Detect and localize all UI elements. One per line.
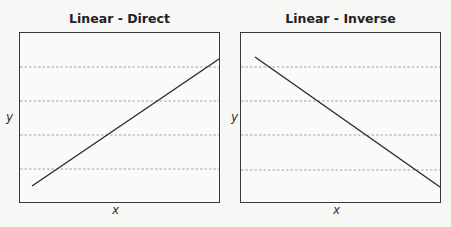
series-line-direct (32, 59, 219, 186)
gridlines-inverse (241, 67, 440, 170)
chart-lines-layer (0, 0, 451, 227)
gridlines-direct (20, 67, 219, 169)
series-line-inverse (255, 57, 440, 187)
